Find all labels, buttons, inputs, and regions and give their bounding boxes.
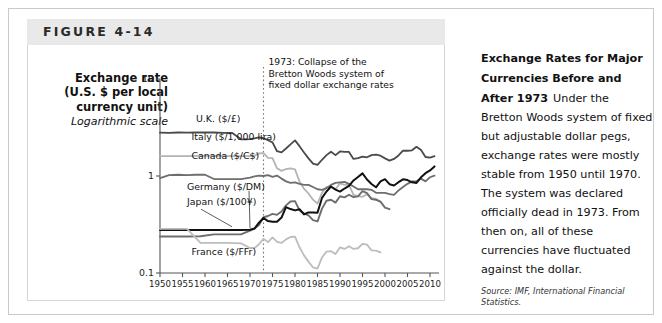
caption-text: Exchange Rates for Major Currencies Befo…	[481, 47, 653, 277]
x-tick-label: 2000	[374, 279, 396, 289]
exchange-rate-line-chart: 1010.11950195519601965197019751980198519…	[28, 45, 446, 301]
caption-panel: Exchange Rates for Major Currencies Befo…	[481, 47, 653, 308]
series-label-3: Germany ($/DM)	[187, 181, 265, 192]
series-label-2: Canada ($/C$)	[192, 150, 260, 161]
figure-card: FIGURE 4-14 Exchange rate (U.S. $ per lo…	[8, 8, 654, 315]
annotation-text-line-2: Bretton Woods system of	[269, 68, 385, 79]
series-leader-4	[201, 209, 232, 227]
series-label-0: U.K. ($/£)	[196, 113, 240, 124]
series-label-5: France ($/FFr)	[192, 246, 257, 257]
x-tick-label: 1970	[239, 279, 261, 289]
x-tick-label: 2010	[419, 279, 441, 289]
x-tick-label: 1985	[307, 279, 329, 289]
caption-source: Source: IMF, International Financial Sta…	[481, 286, 653, 307]
y-tick-label: 0.1	[139, 267, 154, 278]
y-tick-label: 1	[148, 170, 154, 181]
figure-number-label: FIGURE 4-14	[43, 24, 155, 39]
x-tick-label: 1975	[262, 279, 284, 289]
x-tick-label: 2005	[397, 279, 419, 289]
x-tick-label: 1980	[284, 279, 306, 289]
y-tick-label: 10	[142, 73, 154, 84]
x-tick-label: 1990	[329, 279, 351, 289]
x-tick-label: 1950	[149, 279, 171, 289]
x-tick-label: 1960	[194, 279, 216, 289]
x-tick-label: 1965	[217, 279, 239, 289]
x-tick-label: 1955	[172, 279, 194, 289]
series-label-1: Italy ($/1,000 lira)	[192, 131, 276, 142]
annotation-text-line-1: 1973: Collapse of the	[269, 56, 368, 67]
annotation-text-line-3: fixed dollar exchange rates	[269, 79, 394, 90]
x-tick-label: 1995	[352, 279, 374, 289]
chart-frame: Exchange rate (U.S. $ per local currency…	[27, 45, 445, 301]
series-label-4: Japan ($/100¥)	[186, 196, 256, 207]
caption-body: Under the Bretton Woods system of fixed …	[481, 92, 652, 277]
